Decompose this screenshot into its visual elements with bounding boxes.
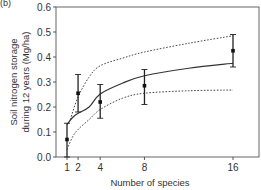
error-bar	[97, 85, 103, 119]
y-tick-label: 0.3	[37, 77, 51, 88]
data-point-marker	[65, 138, 69, 142]
y-tick-label: 0.6	[37, 2, 51, 13]
y-tick-label: 0.2	[37, 102, 51, 113]
y-tick-label: 0.1	[37, 127, 51, 138]
confidence-band-line	[67, 90, 233, 150]
y-axis-title-line-1: Soil nitrogen storage	[8, 38, 19, 125]
data-point-marker	[76, 91, 80, 95]
y-tick-label: 0.4	[37, 52, 51, 63]
plot-border	[56, 7, 259, 157]
plot-frame	[56, 7, 259, 157]
x-tick-label: 16	[227, 162, 239, 173]
x-axis: 124816	[64, 157, 239, 173]
error-bars	[64, 35, 236, 158]
data-point-marker	[143, 84, 147, 88]
x-tick-label: 4	[97, 162, 103, 173]
y-tick-label: 0.5	[37, 27, 51, 38]
data-point-marker	[98, 100, 102, 104]
error-bar	[230, 35, 236, 68]
data-point-marker	[231, 49, 235, 53]
error-bar	[64, 123, 70, 157]
x-tick-label: 8	[142, 162, 148, 173]
y-axis-title: Soil nitrogen storage during 12 years (M…	[8, 32, 31, 133]
error-bar	[75, 75, 81, 113]
y-tick-label: 0.0	[37, 152, 51, 163]
confidence-bands	[67, 36, 233, 150]
y-axis-title-line-2: during 12 years (Mg/ha)	[20, 32, 31, 133]
confidence-band-line	[70, 36, 233, 120]
chart: (b) 0.00.10.20.30.40.50.6 124816 Number …	[0, 0, 261, 190]
x-tick-label: 2	[75, 162, 81, 173]
y-axis: 0.00.10.20.30.40.50.6	[37, 2, 56, 163]
panel-label: (b)	[0, 0, 11, 8]
x-tick-label: 1	[64, 162, 70, 173]
x-axis-title: Number of species	[110, 177, 189, 188]
